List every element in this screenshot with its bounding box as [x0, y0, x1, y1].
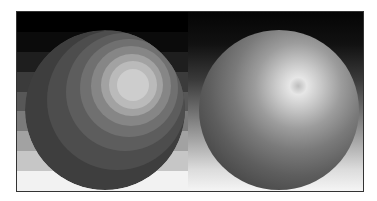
smooth-sphere — [199, 30, 359, 190]
posterized-sphere — [25, 30, 185, 190]
smooth-panel — [188, 12, 363, 191]
posterized-panel — [17, 12, 188, 191]
background-band — [17, 12, 188, 32]
figure-frame — [16, 11, 364, 192]
shading-ring — [117, 69, 149, 101]
